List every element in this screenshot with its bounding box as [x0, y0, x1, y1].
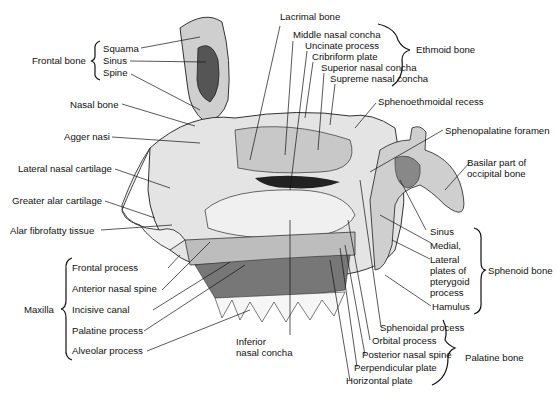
sphenopalatine-foramen-label: Sphenopalatine foramen	[445, 125, 550, 136]
sphenoid-hamulus-label: Hamulus	[432, 301, 470, 312]
palatine-sphenoidal-process-label: Sphenoidal process	[380, 322, 464, 333]
palatine-posterior-nasal-spine-label: Posterior nasal spine	[362, 349, 452, 360]
ethmoid-middle-nasal-concha-label: Middle nasal concha	[293, 29, 380, 40]
maxilla-incisive-canal-label: Incisive canal	[72, 304, 130, 315]
ethmoid-cribriform-plate-label: Cribriform plate	[312, 51, 378, 62]
frontal-bone-shape	[180, 17, 229, 122]
sphenoid-sinus-label: Sinus	[430, 226, 454, 237]
sphenoid-bone-label: Sphenoid bone	[488, 265, 553, 276]
palatine-perpendicular-plate-label: Perpendicular plate	[354, 362, 437, 373]
frontal-squama-label: Squama	[103, 43, 139, 54]
ethmoid-superior-nasal-concha-label: Superior nasal concha	[321, 62, 416, 73]
greater-alar-cartilage-label: Greater alar cartilage	[12, 195, 102, 206]
sphenoid-lateral-plates-line4: process	[430, 287, 464, 298]
palatine-orbital-process-label: Orbital process	[372, 335, 437, 346]
frontal-spine-label: Spine	[103, 67, 128, 78]
frontal-sinus-label: Sinus	[103, 55, 127, 66]
nasal-wall-shape	[122, 112, 404, 322]
nasal-bone-label: Nasal bone	[70, 99, 119, 110]
maxilla-anterior-nasal-spine-label: Anterior nasal spine	[72, 283, 157, 294]
agger-nasi-label: Agger nasi	[64, 131, 110, 142]
sphenoid-lateral-plates-line1: Lateral	[430, 254, 459, 265]
lateral-nasal-cartilage-label: Lateral nasal cartilage	[18, 163, 112, 174]
maxilla-alveolar-process-label: Alveolar process	[72, 345, 143, 356]
palatine-bone-label: Palatine bone	[465, 352, 524, 363]
inferior-nasal-concha-line1: Inferior	[236, 336, 266, 347]
palatine-horizontal-plate-label: Horizontal plate	[346, 375, 413, 386]
maxilla-palatine-process-label: Palatine process	[72, 325, 143, 336]
sphenoid-lateral-plates-line2: plates of	[430, 265, 466, 276]
ethmoid-bone-label: Ethmoid bone	[416, 44, 475, 55]
lacrimal-bone-label: Lacrimal bone	[280, 11, 340, 22]
ethmoid-supreme-nasal-concha-label: Supreme nasal concha	[330, 73, 428, 84]
sphenoid-lateral-plates-line3: pterygoid	[430, 276, 469, 287]
alar-fibrofatty-tissue-label: Alar fibrofatty tissue	[10, 225, 94, 236]
sphenoid-medial-label: Medial,	[430, 240, 461, 251]
frontal-bone-label: Frontal bone	[32, 55, 86, 66]
ethmoid-uncinate-process-label: Uncinate process	[305, 40, 379, 51]
inferior-nasal-concha-line2: nasal concha	[236, 347, 293, 358]
sphenoethmoidal-recess-label: Sphenoethmoidal recess	[378, 96, 484, 107]
maxilla-frontal-process-label: Frontal process	[72, 262, 138, 273]
basilar-part-label-line1: Basilar part of	[467, 157, 526, 168]
basilar-part-label-line2: occipital bone	[467, 168, 526, 179]
maxilla-label: Maxilla	[24, 304, 54, 315]
